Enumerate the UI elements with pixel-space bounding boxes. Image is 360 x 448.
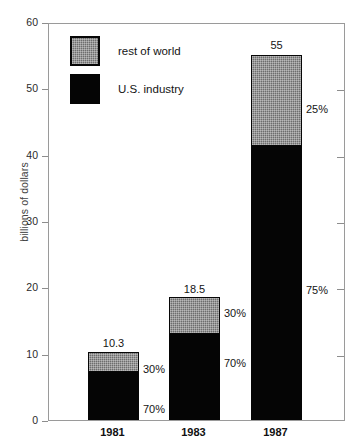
x-tick-label-1981: 1981 bbox=[68, 426, 158, 438]
bar-1987-value-label: 55 bbox=[237, 39, 317, 51]
bar-1983-percent-rest-of-world: 30% bbox=[224, 307, 246, 319]
legend-label-rest-of-world: rest of world bbox=[118, 45, 181, 57]
y-tick-label-30: 30 bbox=[26, 215, 38, 227]
y-tick-40: 40 bbox=[0, 156, 48, 157]
bar-1987[interactable] bbox=[251, 55, 302, 420]
bar-1981-segment-us-industry bbox=[88, 372, 139, 420]
legend-swatch-rest-of-world bbox=[70, 36, 100, 66]
y-tick-50: 50 bbox=[0, 89, 48, 90]
bar-1983-value-label: 18.5 bbox=[155, 283, 235, 295]
legend-label-us-industry: U.S. industry bbox=[118, 83, 184, 95]
y-tick-mark-right-40 bbox=[337, 157, 344, 158]
y-tick-label-0: 0 bbox=[32, 414, 38, 426]
legend-item-rest-of-world: rest of world bbox=[70, 34, 260, 68]
bar-1981-percent-rest-of-world: 30% bbox=[143, 363, 165, 375]
y-tick-label-60: 60 bbox=[26, 16, 38, 28]
y-tick-60: 60 bbox=[0, 23, 48, 24]
x-tick-label-1987: 1987 bbox=[231, 426, 321, 438]
bar-1983-segment-rest-of-world bbox=[169, 297, 220, 334]
y-tick-mark-0 bbox=[42, 421, 48, 422]
y-tick-mark-right-10 bbox=[337, 356, 344, 357]
y-tick-label-10: 10 bbox=[26, 348, 38, 360]
legend: rest of world U.S. industry bbox=[70, 34, 260, 110]
bar-1981-percent-us-industry: 70% bbox=[143, 403, 165, 415]
y-tick-mark-right-50 bbox=[337, 90, 344, 91]
bar-1987-percent-rest-of-world: 25% bbox=[306, 103, 328, 115]
y-tick-0: 0 bbox=[0, 421, 48, 422]
y-tick-20: 20 bbox=[0, 288, 48, 289]
legend-item-us-industry: U.S. industry bbox=[70, 72, 260, 106]
bar-1981[interactable] bbox=[88, 352, 139, 420]
y-tick-label-40: 40 bbox=[26, 149, 38, 161]
bar-1983-segment-us-industry bbox=[169, 334, 220, 420]
bar-1983[interactable] bbox=[169, 297, 220, 420]
plot-area: rest of world U.S. industry 10.3 30% 70%… bbox=[48, 23, 345, 421]
y-tick-label-50: 50 bbox=[26, 82, 38, 94]
bar-1987-segment-us-industry bbox=[251, 146, 302, 420]
bar-1981-segment-rest-of-world bbox=[88, 352, 139, 373]
bar-1987-percent-us-industry: 75% bbox=[306, 284, 328, 296]
y-tick-30: 30 bbox=[0, 222, 48, 223]
legend-swatch-us-industry bbox=[70, 74, 100, 104]
y-tick-label-20: 20 bbox=[26, 281, 38, 293]
bar-1983-percent-us-industry: 70% bbox=[224, 357, 246, 369]
bar-1981-value-label: 10.3 bbox=[74, 337, 154, 349]
y-tick-mark-right-20 bbox=[337, 289, 344, 290]
y-tick-mark-right-30 bbox=[337, 223, 344, 224]
y-tick-10: 10 bbox=[0, 355, 48, 356]
x-tick-label-1983: 1983 bbox=[149, 426, 239, 438]
stacked-bar-chart: billions of dollars 60 50 40 30 20 10 0 bbox=[0, 0, 360, 448]
bar-1987-segment-rest-of-world bbox=[251, 55, 302, 146]
